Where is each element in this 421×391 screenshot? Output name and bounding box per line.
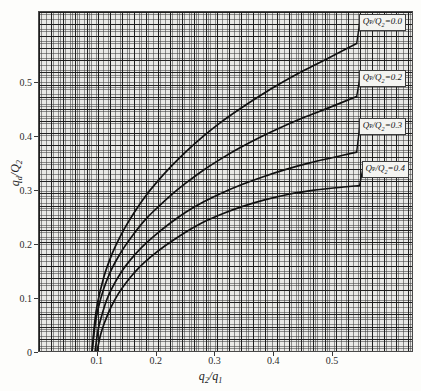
curve-label-2: QP/Q2=0.3 xyxy=(359,118,406,135)
y-tick-label: 0.1 xyxy=(6,293,32,304)
x-tick-label: 0.1 xyxy=(91,355,104,366)
curve-label-3: QP/Q2=0.4 xyxy=(362,161,409,178)
curve-2 xyxy=(95,152,357,352)
y-tick-label: 0.5 xyxy=(6,77,32,88)
curve-label-0: QP/Q2=0.0 xyxy=(359,14,406,31)
curve-1 xyxy=(92,97,357,352)
y-tick-label: 0.4 xyxy=(6,131,32,142)
y-tick-mark xyxy=(34,352,38,353)
curve-0 xyxy=(92,44,357,352)
curve-layer xyxy=(39,12,413,352)
y-tick-mark xyxy=(34,136,38,137)
x-tick-label: 0.5 xyxy=(326,355,339,366)
curve-label-1: QP/Q2=0.2 xyxy=(359,70,406,87)
plot-area xyxy=(38,11,413,352)
y-tick-mark xyxy=(34,190,38,191)
y-axis-title: qd/Q2 xyxy=(8,143,24,203)
x-tick-label: 0.4 xyxy=(267,355,280,366)
x-axis-title: q2/q1 xyxy=(0,369,421,385)
chart-figure: 0.10.20.30.40.500.10.20.30.40.5 q2/q1 qd… xyxy=(0,0,421,391)
x-tick-label: 0.3 xyxy=(208,355,221,366)
y-tick-mark xyxy=(34,298,38,299)
y-tick-label: 0 xyxy=(6,347,32,358)
y-tick-mark xyxy=(34,244,38,245)
y-tick-label: 0.2 xyxy=(6,239,32,250)
y-tick-mark xyxy=(34,82,38,83)
x-tick-label: 0.2 xyxy=(149,355,162,366)
